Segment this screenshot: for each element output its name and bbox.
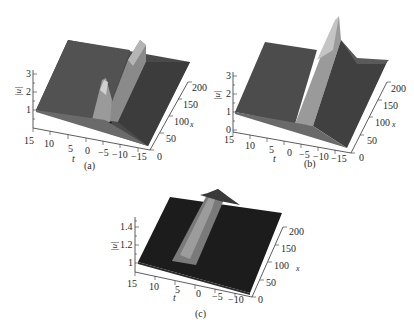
x-tick-a-0: 0 [157, 152, 162, 162]
x-tick-b-150: 150 [383, 101, 398, 111]
x-tick-a-100: 100 [174, 117, 189, 127]
z-axis-label-a: |u| [13, 87, 23, 96]
t-axis-label-c: t [173, 293, 176, 303]
x-tick-a-150: 150 [183, 100, 198, 110]
x-axis-label-c: x [296, 264, 300, 274]
z-tick-a-2: 2 [26, 87, 31, 97]
z-axis-label-c: |u| [109, 242, 119, 251]
t-tick-a-m10: −10 [112, 150, 128, 160]
x-tick-b-100: 100 [375, 118, 390, 128]
z-axis-label-b: |u| [212, 91, 222, 100]
x-tick-c-200: 200 [289, 227, 304, 237]
panel-c: 1.4 1.2 1 |u| 15 10 5 0 −5 −10 t 0 50 10… [100, 165, 320, 329]
t-tick-c-m10: −10 [228, 295, 244, 305]
surface-plot-b [207, 0, 414, 165]
x-axis-label-b: x [392, 120, 396, 130]
x-tick-a-50: 50 [166, 134, 176, 144]
t-tick-b-10: 10 [245, 141, 255, 151]
z-tick-c-1: 1 [128, 258, 133, 268]
panel-b: 3 2 1 0 |u| 15 10 5 0 −5 −10 −15 t 0 50 … [207, 0, 414, 165]
x-tick-b-50: 50 [367, 136, 377, 146]
t-tick-a-0: 0 [85, 146, 90, 156]
caption-a: (a) [84, 160, 95, 171]
z-tick-c-1.4: 1.4 [120, 222, 133, 232]
t-tick-c-m5: −5 [212, 292, 223, 302]
t-tick-b-m15: −15 [331, 154, 347, 164]
t-axis-label-a: t [72, 154, 75, 164]
t-tick-a-10: 10 [44, 139, 54, 149]
z-tick-c-1.2: 1.2 [120, 240, 133, 250]
t-tick-c-10: 10 [149, 282, 159, 292]
t-tick-b-0: 0 [287, 148, 292, 158]
t-tick-a-15: 15 [24, 136, 34, 146]
t-tick-c-0: 0 [196, 289, 201, 299]
z-tick-b-2: 2 [226, 89, 231, 99]
t-tick-a-m15: −15 [131, 152, 147, 162]
panel-a: 3 2 1 |u| 15 10 5 0 −5 −10 −15 t 0 50 10… [0, 0, 207, 165]
z-tick-a-1: 1 [26, 105, 31, 115]
z-tick-b-3: 3 [226, 71, 231, 81]
t-tick-a-m5: −5 [98, 148, 109, 158]
x-axis-label-a: x [190, 120, 194, 130]
x-tick-b-200: 200 [391, 84, 406, 94]
t-tick-c-15: 15 [127, 279, 137, 289]
caption-c: (c) [195, 308, 206, 319]
x-tick-a-200: 200 [192, 83, 207, 93]
x-tick-c-0: 0 [258, 295, 263, 305]
t-tick-b-15: 15 [224, 135, 234, 145]
x-tick-b-0: 0 [359, 153, 364, 163]
t-axis-label-b: t [273, 154, 276, 164]
x-tick-c-150: 150 [281, 244, 296, 254]
z-tick-b-1: 1 [226, 107, 231, 117]
z-tick-a-3: 3 [26, 69, 31, 79]
x-tick-c-100: 100 [274, 261, 289, 271]
x-tick-c-50: 50 [266, 278, 276, 288]
